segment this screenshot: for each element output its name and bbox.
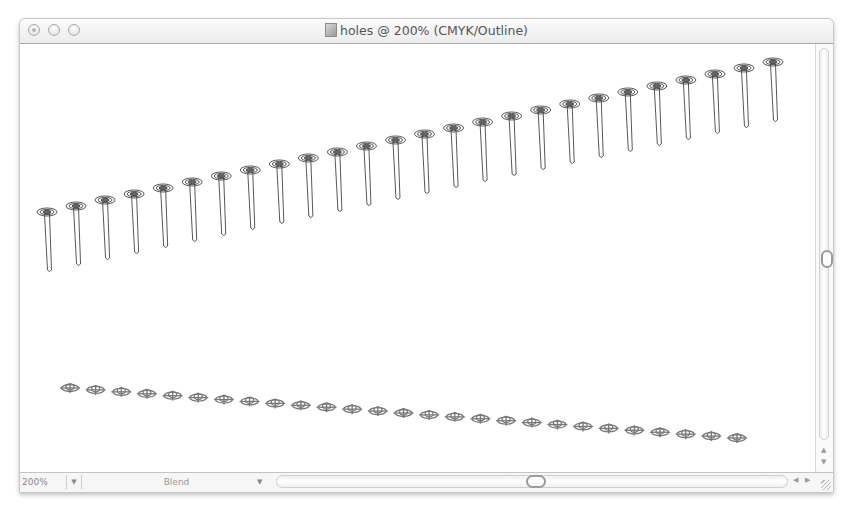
hole-shape[interactable]: [496, 416, 516, 426]
arrow-right-icon[interactable]: ▶: [805, 476, 810, 484]
hole-shape[interactable]: [291, 400, 311, 410]
hole-shape[interactable]: [650, 427, 670, 437]
hole-shape[interactable]: [676, 429, 696, 439]
document-proxy-icon[interactable]: [325, 23, 337, 37]
document-window: holes @ 200% (CMYK/Outline) ▲ ▼ 200% ▼ B…: [19, 18, 834, 493]
triangle-down-icon: ▼: [257, 478, 262, 486]
hole-shape[interactable]: [624, 425, 644, 435]
nail-shape[interactable]: [676, 76, 696, 140]
triangle-down-icon: ▼: [71, 478, 76, 486]
nail-shape[interactable]: [415, 130, 435, 194]
arrow-up-icon[interactable]: ▲: [821, 446, 826, 454]
nail-shape[interactable]: [269, 160, 289, 224]
nail-shape[interactable]: [66, 202, 86, 266]
nail-shape[interactable]: [211, 172, 231, 236]
nail-shape[interactable]: [327, 148, 347, 212]
vertical-scroll-track[interactable]: [819, 48, 829, 440]
hole-shape[interactable]: [419, 410, 439, 420]
status-bar: 200% ▼ Blend ▼ ◀ ▶: [20, 472, 833, 492]
hole-shape[interactable]: [727, 433, 747, 443]
status-label[interactable]: Blend: [84, 475, 269, 489]
nail-shape[interactable]: [240, 166, 260, 230]
zoom-dropdown-button[interactable]: ▼: [66, 475, 82, 489]
hole-shape[interactable]: [265, 398, 285, 408]
hole-shape[interactable]: [573, 421, 593, 431]
hole-shape[interactable]: [163, 391, 183, 401]
nail-shape[interactable]: [618, 88, 638, 152]
nail-shape[interactable]: [560, 100, 580, 164]
hole-shape[interactable]: [445, 412, 465, 422]
hole-shape[interactable]: [701, 431, 721, 441]
hole-shape[interactable]: [317, 402, 337, 412]
nail-shape[interactable]: [153, 184, 173, 248]
nail-shape[interactable]: [385, 136, 405, 200]
hole-shape[interactable]: [240, 396, 260, 406]
nail-shape[interactable]: [356, 142, 376, 206]
nail-shape[interactable]: [124, 190, 144, 254]
window-title-container: holes @ 200% (CMYK/Outline): [20, 23, 833, 38]
status-dropdown-button[interactable]: ▼: [257, 475, 269, 489]
arrow-down-icon[interactable]: ▼: [821, 458, 826, 466]
artwork: [20, 44, 815, 472]
hole-shape[interactable]: [137, 389, 157, 399]
hole-shape[interactable]: [60, 383, 80, 393]
window-title: holes @ 200% (CMYK/Outline): [340, 23, 528, 38]
horizontal-scroll-thumb[interactable]: [526, 475, 546, 488]
hole-shape[interactable]: [368, 406, 388, 416]
hole-shape[interactable]: [394, 408, 414, 418]
nail-shape[interactable]: [589, 94, 609, 158]
nail-shape[interactable]: [502, 112, 522, 176]
nail-shape[interactable]: [37, 208, 57, 272]
nail-shape[interactable]: [647, 82, 667, 146]
nail-shape[interactable]: [734, 64, 754, 128]
hole-shape[interactable]: [522, 418, 542, 428]
nail-shape[interactable]: [298, 154, 318, 218]
hole-shape[interactable]: [599, 423, 619, 433]
hole-shape[interactable]: [547, 420, 567, 430]
artboard-canvas[interactable]: [20, 44, 815, 472]
arrow-left-icon[interactable]: ◀: [793, 476, 798, 484]
horizontal-scrollbar[interactable]: [276, 475, 788, 488]
nail-shape[interactable]: [95, 196, 115, 260]
vertical-scroll-thumb[interactable]: [821, 250, 833, 268]
hole-shape[interactable]: [470, 414, 490, 424]
hole-shape[interactable]: [111, 387, 131, 397]
nail-shape[interactable]: [705, 70, 725, 134]
hole-shape[interactable]: [214, 395, 234, 405]
hole-shape[interactable]: [188, 393, 208, 403]
hole-shape[interactable]: [342, 404, 362, 414]
nail-shape[interactable]: [763, 58, 783, 122]
vertical-scrollbar[interactable]: ▲ ▼: [815, 44, 833, 472]
resize-grip[interactable]: [821, 480, 831, 490]
zoom-level-field[interactable]: 200%: [20, 475, 66, 489]
nail-shape[interactable]: [531, 106, 551, 170]
nail-shape[interactable]: [444, 124, 464, 188]
nail-shape[interactable]: [182, 178, 202, 242]
nail-shape[interactable]: [473, 118, 493, 182]
title-bar[interactable]: holes @ 200% (CMYK/Outline): [20, 19, 833, 44]
hole-shape[interactable]: [86, 385, 106, 395]
